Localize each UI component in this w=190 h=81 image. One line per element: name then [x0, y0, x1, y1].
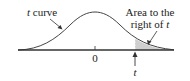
area-label-line1: Area to the [126, 6, 175, 18]
t-distribution-diagram: 0 t t curve Area to the right of t [0, 0, 190, 81]
t-marker-label: t [133, 66, 137, 78]
area-label-line2: right of t [131, 18, 170, 30]
t-curve-label: t curve [27, 6, 57, 18]
center-tick-label: 0 [92, 52, 98, 64]
t-marker-arrowhead-icon [133, 52, 138, 58]
